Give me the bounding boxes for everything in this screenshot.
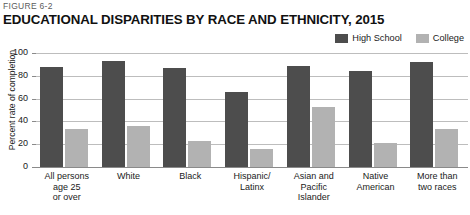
figure-label: FIGURE 6-2	[3, 1, 53, 11]
bar-college[interactable]	[435, 129, 458, 167]
legend-item-high-school: High School	[335, 33, 402, 43]
x-axis-label: NativeAmerican	[345, 171, 407, 203]
legend-swatch-college	[416, 34, 429, 43]
tick-mark-0	[32, 167, 36, 168]
bar-group	[159, 53, 221, 167]
bar-college[interactable]	[250, 149, 273, 167]
x-axis-label: Asian andPacificIslander	[283, 171, 345, 203]
chart-legend: High School College	[335, 33, 464, 43]
x-axis-label-line: two races	[407, 182, 467, 193]
page-title: EDUCATIONAL DISPARITIES BY RACE AND ETHN…	[3, 12, 384, 27]
y-tick-label-100: 100	[2, 47, 28, 57]
bar-group	[345, 53, 407, 167]
bar-high-school[interactable]	[40, 67, 63, 167]
bar-group	[221, 53, 283, 167]
y-tick-label-80: 80	[2, 70, 28, 80]
bar-high-school[interactable]	[102, 61, 125, 167]
x-axis-label: Hispanic/Latinx	[221, 171, 283, 203]
bar-college[interactable]	[65, 129, 88, 167]
bar-group	[36, 53, 98, 167]
bar-college[interactable]	[127, 126, 150, 167]
plot-region: 100806040200	[36, 53, 468, 167]
x-axis-label-line: Native	[346, 171, 406, 182]
x-axis-label-line: All persons	[37, 171, 97, 182]
bar-college[interactable]	[374, 143, 397, 167]
x-axis-label: White	[98, 171, 160, 203]
x-axis-label-line: Islander	[284, 192, 344, 203]
y-tick-label-0: 0	[2, 161, 28, 171]
bar-group	[283, 53, 345, 167]
legend-label-high-school: High School	[352, 33, 402, 43]
bar-high-school[interactable]	[225, 92, 248, 167]
x-axis-label-line: Latinx	[222, 182, 282, 193]
legend-swatch-high-school	[335, 34, 348, 43]
x-axis-label-line: American	[346, 182, 406, 193]
chart-area: Percent rate of completion 100806040200 …	[0, 47, 470, 215]
bar-groups	[36, 53, 468, 167]
bar-high-school[interactable]	[287, 66, 310, 167]
y-tick-label-60: 60	[2, 93, 28, 103]
x-axis-label-line: More than	[407, 171, 467, 182]
x-axis-label-line: Pacific	[284, 182, 344, 193]
x-axis-label: Black	[159, 171, 221, 203]
x-axis-label: All personsage 25or over	[36, 171, 98, 203]
bar-high-school[interactable]	[349, 71, 372, 167]
bar-high-school[interactable]	[163, 68, 186, 167]
x-axis-labels: All personsage 25or overWhiteBlackHispan…	[36, 171, 468, 203]
bar-group	[406, 53, 468, 167]
x-axis-label-line: age 25	[37, 182, 97, 193]
legend-item-college: College	[416, 33, 464, 43]
x-axis-label-line: Hispanic/	[222, 171, 282, 182]
x-axis-label-line: White	[99, 171, 159, 182]
bar-high-school[interactable]	[410, 62, 433, 167]
x-axis-label-line: Black	[160, 171, 220, 182]
legend-label-college: College	[433, 33, 464, 43]
bar-college[interactable]	[312, 107, 335, 167]
bar-group	[98, 53, 160, 167]
y-tick-label-20: 20	[2, 138, 28, 148]
x-axis-label: More thantwo races	[406, 171, 468, 203]
bar-college[interactable]	[188, 141, 211, 167]
gridline-0	[36, 167, 468, 168]
x-axis-label-line: Asian and	[284, 171, 344, 182]
y-tick-label-40: 40	[2, 115, 28, 125]
x-axis-label-line: or over	[37, 192, 97, 203]
